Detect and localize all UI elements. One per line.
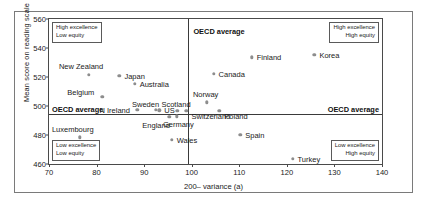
y-axis-tick-mark [46,106,49,107]
quadrant-note-line: Low equity [56,32,98,40]
y-axis-tick-label: 540 [33,44,46,53]
x-axis-tick-mark [382,164,383,167]
data-point-label: N Ireland [99,106,129,115]
quadrant-note-line: High excellence [56,24,98,32]
data-point-label: Norway [193,90,218,99]
quadrant-note-line: High excellence [333,24,375,32]
data-point-label: New Zealand [59,62,103,71]
data-point[interactable] [168,115,171,118]
quadrant-note-top-right: High excellenceHigh equity [329,22,379,43]
y-axis-tick-mark [46,19,49,20]
x-axis-tick-mark [144,164,145,167]
data-point[interactable] [175,114,178,117]
oecd-average-label-right: OECD average [328,105,379,114]
data-point-label: Belgium [67,88,94,97]
y-axis-tick-label: 480 [33,131,46,140]
data-point[interactable] [78,135,81,138]
y-axis-tick-label: 520 [33,73,46,82]
x-axis-tick-label: 90 [140,168,148,177]
x-axis-tick-mark [97,164,98,167]
data-point[interactable] [313,53,316,56]
data-point[interactable] [239,133,242,136]
plot-area: 460480500520540560708090100110120130140O… [48,18,383,165]
quadrant-note-line: Low equity [56,150,96,158]
quadrant-note-line: Low excellence [335,142,375,150]
data-point[interactable] [205,101,208,104]
data-point[interactable] [87,73,90,76]
data-point[interactable] [118,74,121,77]
oecd-average-label-left: OECD average [52,105,103,114]
quadrant-note-top-left: High excellenceLow equity [52,22,102,43]
data-point-label: Poland [224,112,247,121]
quadrant-note-line: High equity [333,32,375,40]
x-axis-tick-mark [334,164,335,167]
quadrant-note-bottom-right: Low excellenceHigh equity [331,140,379,161]
quadrant-note-line: High equity [335,150,375,158]
data-point-label: Germany [163,120,194,129]
data-point[interactable] [250,56,253,59]
y-axis-tick-mark [46,135,49,136]
x-axis-tick-label: 130 [328,168,341,177]
x-axis-tick-mark [49,164,50,167]
x-axis-tick-mark [239,164,240,167]
data-point[interactable] [212,72,215,75]
data-point-label: Turkey [298,155,321,164]
y-axis-tick-label: 500 [33,102,46,111]
y-axis-tick-mark [46,48,49,49]
data-point[interactable] [176,109,179,112]
scatter-chart-figure: 460480500520540560708090100110120130140O… [0,0,427,204]
data-point-label: Canada [219,70,245,79]
quadrant-note-line: Low excellence [56,142,96,150]
x-axis-tick-label: 140 [376,168,389,177]
data-point[interactable] [158,109,161,112]
data-point-label: Finland [257,53,282,62]
data-point[interactable] [170,138,173,141]
data-point-label: Australia [140,80,169,89]
x-axis-tick-mark [287,164,288,167]
y-axis-tick-label: 560 [33,15,46,24]
x-axis-tick-label: 80 [92,168,100,177]
y-axis-label: Mean score on reading scale [22,0,31,123]
quadrant-note-bottom-left: Low excellenceLow equity [52,140,100,161]
x-axis-tick-mark [192,164,193,167]
oecd-average-label-top: OECD average [193,27,244,36]
data-point-label: Sweden [132,100,159,109]
y-axis-tick-mark [46,77,49,78]
data-point-label: Korea [319,51,339,60]
data-point-label: Scotland [161,100,190,109]
x-axis-tick-label: 100 [185,168,198,177]
data-point-label: Wales [177,136,198,145]
data-point-label: Luxembourg [52,125,94,134]
data-point-label: Spain [245,131,264,140]
x-axis-tick-label: 110 [233,168,245,177]
x-axis-tick-label: 120 [281,168,294,177]
data-point[interactable] [101,95,104,98]
data-point[interactable] [291,157,294,160]
x-axis-tick-label: 70 [45,168,53,177]
data-point[interactable] [133,82,136,85]
x-axis-label: 200– variance (a) [0,182,427,191]
